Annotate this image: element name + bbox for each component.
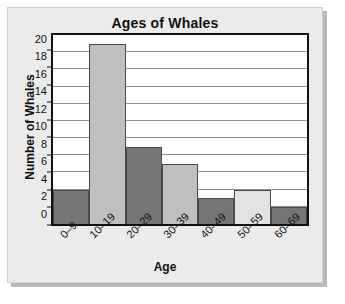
y-tick-mark	[47, 154, 51, 155]
y-tick-label: 10	[35, 120, 47, 132]
x-tick-slot: 60–69	[272, 226, 309, 262]
y-tick-label: 16	[35, 68, 47, 80]
x-tick-slot: 20–29	[125, 226, 162, 262]
y-tick-label: 14	[35, 85, 47, 97]
y-axis-ticks: 02468101214161820	[51, 33, 309, 226]
y-tick-label: 6	[41, 155, 47, 167]
y-tick-label: 4	[41, 173, 47, 185]
y-tick-label: 20	[35, 33, 47, 45]
y-tick-mark	[47, 172, 51, 173]
chart-panel: Ages of Whales Number of Whales 02468101…	[7, 7, 323, 283]
y-tick-mark	[47, 102, 51, 103]
y-tick-mark	[47, 49, 51, 50]
chart-title: Ages of Whales	[8, 15, 322, 31]
x-axis-title: Age	[8, 260, 322, 274]
y-tick-mark	[47, 207, 51, 208]
y-tick-label: 0	[41, 208, 47, 220]
y-tick-label: 2	[41, 190, 47, 202]
chart-screenshot: Ages of Whales Number of Whales 02468101…	[0, 0, 345, 304]
x-tick-slot: 40–49	[198, 226, 235, 262]
x-axis-ticks: 0–910–1920–2930–3940–4950–5960–69	[51, 226, 309, 262]
x-tick-slot: 30–39	[162, 226, 199, 262]
y-tick-label: 18	[35, 50, 47, 62]
y-tick-mark	[47, 189, 51, 190]
y-tick-mark	[47, 137, 51, 138]
y-tick-mark	[47, 67, 51, 68]
x-tick-slot: 0–9	[51, 226, 88, 262]
y-tick-label: 12	[35, 103, 47, 115]
y-tick-mark	[47, 84, 51, 85]
x-tick-slot: 10–19	[88, 226, 125, 262]
y-tick-mark	[47, 119, 51, 120]
y-tick-label: 8	[41, 138, 47, 150]
x-tick-slot: 50–59	[235, 226, 272, 262]
